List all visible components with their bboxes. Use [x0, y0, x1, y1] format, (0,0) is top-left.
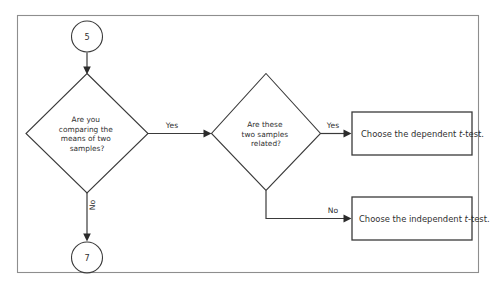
arrowhead-decision1-yes — [204, 130, 212, 138]
outcome-dependent-t-test-label: Choose the dependent t-test. — [361, 129, 484, 139]
flowchart-canvas: 5 Are you comparing the means of two sam… — [0, 0, 494, 290]
edge-label-means-yes: Yes — [165, 121, 178, 130]
flowchart-page: 5 Are you comparing the means of two sam… — [0, 0, 494, 290]
arrowhead-decision1-no — [83, 234, 91, 242]
arrowhead-decision2-no — [344, 215, 352, 223]
edge-label-related-yes: Yes — [326, 121, 339, 130]
edge-label-related-no: No — [328, 206, 339, 215]
arrowhead-decision2-yes — [344, 130, 352, 138]
terminal-exit-label: 7 — [84, 253, 89, 263]
outcome-independent-t-test-label: Choose the independent t-test. — [359, 214, 490, 224]
terminal-start-label: 5 — [84, 32, 89, 42]
decision-samples-related-label: Are these two samples related? — [242, 120, 291, 148]
edge-label-means-no: No — [88, 199, 97, 210]
decision-means-two-samples-label: Are you comparing the means of two sampl… — [59, 115, 115, 153]
